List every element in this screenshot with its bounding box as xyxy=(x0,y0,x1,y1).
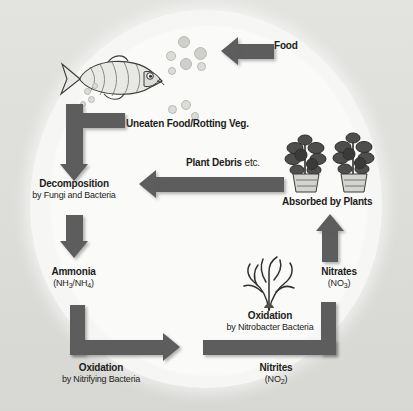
label-ammonia: Ammonia (NH3/NH4) xyxy=(26,266,121,289)
nitrites-title: Nitrites xyxy=(260,362,293,373)
label-plant-debris: Plant Debris etc. xyxy=(186,157,260,169)
oxidation-nitrobacter-subtitle: by Nitrobacter Bacteria xyxy=(210,322,330,334)
decomposition-subtitle: by Fungi and Bacteria xyxy=(14,190,134,202)
nitrates-to-plants-shaft xyxy=(322,230,338,262)
label-absorbed-by-plants: Absorbed by Plants xyxy=(282,196,372,208)
nitrates-title: Nitrates xyxy=(321,266,357,277)
plants-to-decomposition-head xyxy=(139,170,156,198)
ammonia-formula: (NH3/NH4) xyxy=(26,278,121,290)
plant-debris-suffix: etc. xyxy=(245,157,260,168)
label-food: Food xyxy=(274,40,298,52)
diagram-canvas: Food xyxy=(0,0,413,411)
oxidation-nitrifying-subtitle: by Nitrifying Bacteria xyxy=(36,374,166,386)
decomposition-title: Decomposition xyxy=(39,178,109,189)
plant-debris-title: Plant Debris xyxy=(186,157,242,168)
food-arrow-shaft xyxy=(238,44,274,59)
oxidation-nitrifying-title: Oxidation xyxy=(79,362,123,373)
nitrates-formula: (NO3) xyxy=(296,278,382,290)
fish-illustration xyxy=(56,50,166,105)
decomposition-to-ammonia-shaft xyxy=(66,215,83,243)
plants-to-decomposition-shaft xyxy=(156,177,284,192)
label-oxidation-nitrobacter: Oxidation by Nitrobacter Bacteria xyxy=(210,310,330,333)
label-oxidation-nitrifying: Oxidation by Nitrifying Bacteria xyxy=(36,362,166,385)
nitrites-formula: (NO2) xyxy=(228,374,324,386)
uneaten-food-branch-shaft xyxy=(83,113,125,128)
ammonia-to-nitrites-head xyxy=(163,333,180,361)
nitrates-to-plants-head xyxy=(316,214,344,231)
nitrites-to-nitrates-horizontal xyxy=(203,340,336,355)
label-nitrites: Nitrites (NO2) xyxy=(228,362,324,385)
tomato-plants-illustration xyxy=(283,128,383,196)
ammonia-to-nitrites-horizontal xyxy=(70,340,164,355)
algae-illustration xyxy=(236,252,302,312)
label-nitrates: Nitrates (NO3) xyxy=(296,266,382,289)
ammonia-title: Ammonia xyxy=(51,266,95,277)
label-decomposition: Decomposition by Fungi and Bacteria xyxy=(14,178,134,201)
fish-to-decomposition-shaft xyxy=(66,104,83,166)
label-uneaten-food: Uneaten Food/Rotting Veg. xyxy=(126,118,249,130)
decomposition-to-ammonia-head xyxy=(60,241,88,258)
food-arrow-head xyxy=(221,37,238,65)
